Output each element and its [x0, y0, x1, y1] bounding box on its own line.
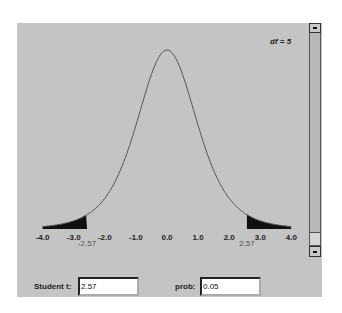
t-distribution-plot: -4.0-3.0-2.0-1.00.01.02.03.04.0 -2.57 2.…: [17, 23, 309, 263]
prob-input[interactable]: [200, 277, 261, 296]
student-t-input[interactable]: [78, 277, 139, 296]
x-axis-ticks: -4.0-3.0-2.0-1.00.01.02.03.04.0: [36, 233, 298, 242]
student-t-label: Student t:: [34, 282, 71, 291]
x-tick-label: -2.0: [98, 233, 112, 242]
arrow-up-icon: [313, 27, 317, 29]
distribution-applet: -4.0-3.0-2.0-1.00.01.02.03.04.0 -2.57 2.…: [17, 23, 322, 297]
scroll-down-button[interactable]: [309, 246, 321, 257]
arrow-down-icon: [313, 251, 317, 253]
scroll-thumb[interactable]: [309, 232, 321, 246]
critical-value-right: 2.57: [239, 239, 255, 248]
x-tick-label: 0.0: [161, 233, 173, 242]
scroll-up-button[interactable]: [309, 23, 321, 33]
density-curve: [43, 50, 292, 227]
x-tick-label: 3.0: [255, 233, 267, 242]
left-tail-area: [43, 215, 88, 229]
critical-value-left: -2.57: [78, 239, 97, 248]
df-label: df = 5: [270, 37, 291, 46]
x-tick-label: 4.0: [286, 233, 298, 242]
right-tail-area: [247, 215, 292, 229]
x-tick-label: -1.0: [129, 233, 143, 242]
df-scrollbar[interactable]: [309, 23, 321, 257]
prob-label: prob:: [175, 282, 195, 291]
x-tick-label: 2.0: [224, 233, 236, 242]
x-tick-label: -4.0: [36, 233, 50, 242]
x-tick-label: 1.0: [193, 233, 205, 242]
